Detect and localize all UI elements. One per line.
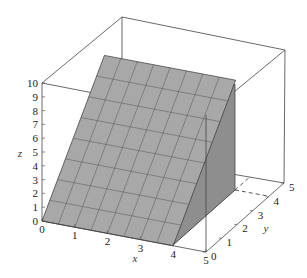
ramp-surface bbox=[42, 55, 236, 245]
z-tick-label: 8 bbox=[33, 105, 39, 117]
z-tick-label: 9 bbox=[33, 91, 39, 103]
x-axis-title: x bbox=[132, 252, 138, 264]
y-tick-label: 1 bbox=[227, 236, 233, 248]
y-tick-label: 3 bbox=[258, 209, 264, 221]
y-tick-label: 0 bbox=[211, 250, 217, 262]
x-tick-label: 0 bbox=[39, 223, 45, 235]
x-tick-label: 4 bbox=[170, 248, 176, 260]
surface-plot: 012345678910012345012345xyz bbox=[0, 0, 307, 278]
z-tick-label: 2 bbox=[33, 187, 39, 199]
y-axis-title: y bbox=[263, 222, 269, 234]
x-tick-label: 2 bbox=[105, 235, 111, 247]
y-tick-label: 4 bbox=[273, 195, 279, 207]
z-tick-label: 5 bbox=[33, 146, 39, 158]
z-tick-label: 6 bbox=[33, 132, 39, 144]
x-tick-label: 3 bbox=[138, 242, 144, 254]
x-tick-label: 1 bbox=[72, 229, 78, 241]
z-axis-title: z bbox=[17, 147, 23, 159]
z-tick-label: 0 bbox=[33, 215, 39, 227]
z-tick-label: 7 bbox=[33, 118, 39, 130]
z-tick-label: 10 bbox=[27, 77, 39, 89]
z-tick-label: 3 bbox=[33, 174, 39, 186]
y-tick-label: 5 bbox=[289, 181, 295, 193]
y-tick-label: 2 bbox=[242, 222, 248, 234]
x-tick-label: 5 bbox=[203, 254, 209, 266]
z-tick-label: 1 bbox=[33, 201, 39, 213]
z-tick-label: 4 bbox=[33, 160, 39, 172]
